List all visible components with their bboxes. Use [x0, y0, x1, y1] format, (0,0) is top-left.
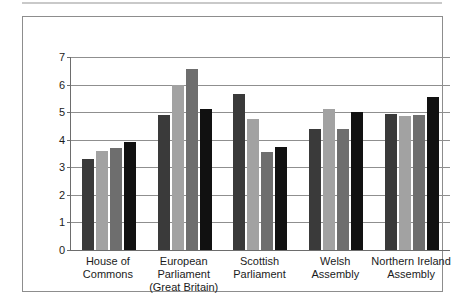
- x-label-line: Welsh: [311, 255, 359, 268]
- bar-series-1-group-5: [385, 114, 397, 250]
- x-axis-label-2: EuropeanParliament(Great Britain): [149, 255, 218, 294]
- bar-series-4-group-2: [200, 109, 212, 250]
- bar-series-2-group-5: [399, 116, 411, 250]
- y-tick-label-1: 1: [59, 217, 65, 228]
- bar-series-3-group-3: [261, 152, 273, 250]
- y-tick-label-6: 6: [59, 79, 65, 90]
- plot-area: 01234567: [70, 57, 450, 251]
- bar-series-2-group-3: [247, 119, 259, 250]
- y-tick-label-0: 0: [59, 245, 65, 256]
- bar-series-1-group-2: [158, 115, 170, 250]
- x-axis-label-4: WelshAssembly: [311, 255, 359, 281]
- y-tick-label-3: 3: [59, 162, 65, 173]
- x-label-line: Scottish: [233, 255, 286, 268]
- bar-series-1-group-4: [309, 129, 321, 250]
- x-axis-category-labels: House ofCommonsEuropeanParliament(Great …: [70, 255, 450, 305]
- bar-group-1: [71, 57, 147, 250]
- bar-group-2: [147, 57, 223, 250]
- x-label-line: Parliament: [149, 268, 218, 281]
- bar-series-1-group-3: [233, 94, 245, 250]
- bar-series-2-group-1: [96, 151, 108, 250]
- y-tick-label-7: 7: [59, 52, 65, 63]
- x-axis-label-3: ScottishParliament: [233, 255, 286, 281]
- bar-group-3: [223, 57, 299, 250]
- x-axis-label-5: Northern IrelandAssembly: [371, 255, 451, 281]
- x-label-line: European: [149, 255, 218, 268]
- bar-group-5: [374, 57, 450, 250]
- y-tick-mark-0: [67, 250, 71, 251]
- bar-series-4-group-5: [427, 97, 439, 250]
- x-label-line: (Great Britain): [149, 281, 218, 294]
- x-label-line: House of: [83, 255, 133, 268]
- bar-series-3-group-1: [110, 148, 122, 250]
- bar-series-4-group-1: [124, 142, 136, 250]
- x-label-line: Parliament: [233, 268, 286, 281]
- bar-group-4: [298, 57, 374, 250]
- x-axis-label-1: House ofCommons: [83, 255, 133, 281]
- bar-series-3-group-4: [337, 129, 349, 250]
- x-label-line: Assembly: [371, 268, 451, 281]
- bar-series-3-group-2: [186, 69, 198, 250]
- bar-series-2-group-4: [323, 109, 335, 250]
- x-label-line: Commons: [83, 268, 133, 281]
- y-tick-label-4: 4: [59, 134, 65, 145]
- bars-layer: [71, 57, 450, 250]
- chart-figure-frame: 01234567 House ofCommonsEuropeanParliame…: [22, 16, 443, 292]
- top-rule: [22, 2, 442, 4]
- x-label-line: Assembly: [311, 268, 359, 281]
- x-label-line: Northern Ireland: [371, 255, 451, 268]
- bar-series-4-group-3: [275, 147, 287, 250]
- bar-series-3-group-5: [413, 115, 425, 250]
- bar-series-1-group-1: [82, 159, 94, 250]
- bar-series-2-group-2: [172, 85, 184, 250]
- y-tick-label-5: 5: [59, 107, 65, 118]
- y-tick-label-2: 2: [59, 189, 65, 200]
- bar-series-4-group-4: [351, 112, 363, 250]
